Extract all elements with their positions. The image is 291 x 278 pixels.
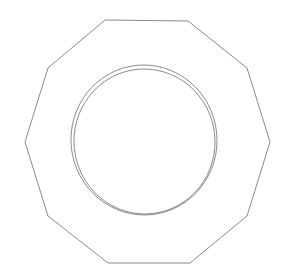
outer-ring bbox=[64, 58, 225, 222]
decagon-outline bbox=[25, 20, 270, 263]
figure-svg bbox=[0, 0, 291, 278]
inner-ring bbox=[67, 62, 222, 221]
drawing-canvas bbox=[0, 0, 291, 278]
